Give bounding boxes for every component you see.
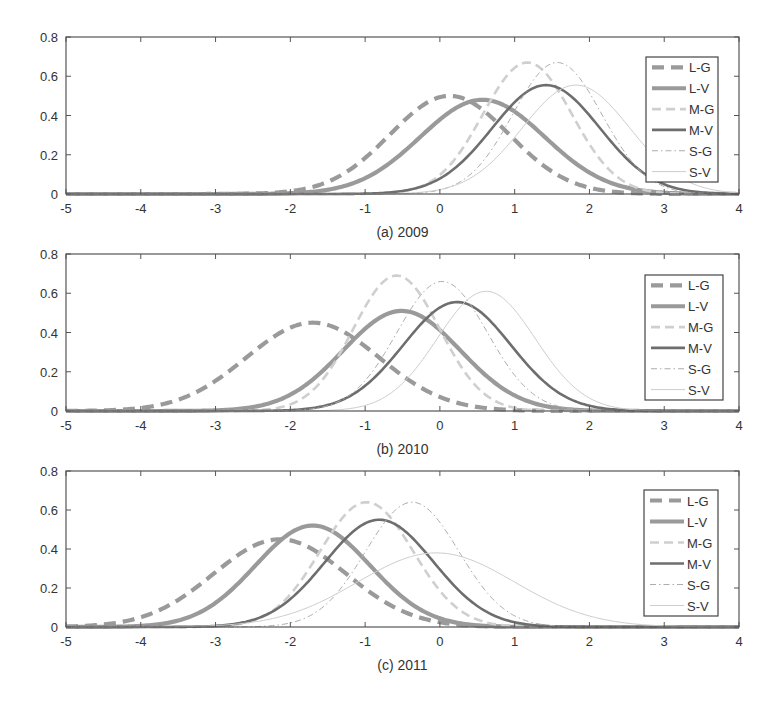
y-tick-label: 0.4 xyxy=(40,326,58,341)
x-tick-label: -4 xyxy=(135,418,147,433)
legend-label-l-v: L-V xyxy=(687,515,708,530)
y-tick-label: 0 xyxy=(51,620,58,635)
x-tick-label: 0 xyxy=(436,201,443,216)
y-tick-label: 0.8 xyxy=(40,30,58,45)
y-tick-label: 0 xyxy=(51,404,58,419)
x-tick-label: 2 xyxy=(586,201,593,216)
curve-m-v xyxy=(66,85,739,194)
x-tick-label: -1 xyxy=(359,634,371,649)
x-tick-label: -3 xyxy=(210,418,222,433)
panel-caption: (b) 2010 xyxy=(376,441,428,457)
axes-box xyxy=(66,471,739,627)
panel-caption: (a) 2009 xyxy=(376,224,428,240)
x-tick-label: 4 xyxy=(735,201,742,216)
legend-label-l-g: L-G xyxy=(687,494,709,509)
panel-caption: (c) 2011 xyxy=(377,657,428,673)
y-tick-label: 0.4 xyxy=(40,109,58,124)
y-tick-label: 0.4 xyxy=(40,542,58,557)
legend-label-m-g: M-G xyxy=(687,536,712,551)
x-tick-label: -2 xyxy=(285,634,297,649)
curve-m-v xyxy=(66,302,739,411)
curve-l-v xyxy=(66,311,739,411)
legend-label-l-g: L-G xyxy=(688,278,710,293)
x-tick-label: 1 xyxy=(511,418,518,433)
x-tick-label: -4 xyxy=(135,201,147,216)
panel-2011: -5-4-3-2-10123400.20.40.60.8(c) 2011L-GL… xyxy=(40,464,743,673)
legend: L-GL-VM-GM-VS-GS-V xyxy=(646,57,718,182)
x-tick-label: 0 xyxy=(436,634,443,649)
curve-l-g xyxy=(66,323,739,411)
y-tick-label: 0.2 xyxy=(40,365,58,380)
panel-2009: -5-4-3-2-10123400.20.40.60.8(a) 2009L-GL… xyxy=(40,30,743,240)
x-tick-label: 3 xyxy=(661,634,668,649)
curve-l-v xyxy=(66,100,739,194)
x-tick-label: 2 xyxy=(586,634,593,649)
curves xyxy=(66,502,739,627)
legend: L-GL-VM-GM-VS-GS-V xyxy=(644,490,718,616)
x-tick-label: 3 xyxy=(661,418,668,433)
curves xyxy=(66,276,739,411)
y-tick-label: 0.6 xyxy=(40,286,58,301)
x-tick-label: -1 xyxy=(359,201,371,216)
y-tick-label: 0.8 xyxy=(40,247,58,262)
legend-label-m-g: M-G xyxy=(688,320,713,335)
legend-label-s-g: S-G xyxy=(688,362,711,377)
x-tick-label: 3 xyxy=(661,201,668,216)
legend-label-m-v: M-V xyxy=(689,123,713,138)
legend-label-l-v: L-V xyxy=(688,299,709,314)
y-tick-label: 0 xyxy=(51,187,58,202)
legend-label-m-v: M-V xyxy=(688,341,712,356)
curve-l-g xyxy=(66,539,739,627)
curve-s-v xyxy=(66,85,739,194)
x-tick-label: -3 xyxy=(210,634,222,649)
panel-2010: -5-4-3-2-10123400.20.40.60.8(b) 2010L-GL… xyxy=(40,247,743,457)
curve-l-g xyxy=(66,96,739,194)
y-tick-label: 0.8 xyxy=(40,464,58,479)
x-tick-label: -2 xyxy=(285,418,297,433)
x-tick-label: 4 xyxy=(735,418,742,433)
legend-label-s-v: S-V xyxy=(689,165,711,180)
x-tick-label: -5 xyxy=(60,201,72,216)
x-tick-label: -3 xyxy=(210,201,222,216)
y-tick-label: 0.2 xyxy=(40,581,58,596)
x-tick-label: -1 xyxy=(359,418,371,433)
curve-m-g xyxy=(66,276,739,411)
curve-m-g xyxy=(66,63,739,194)
legend: L-GL-VM-GM-VS-GS-V xyxy=(645,275,723,400)
x-tick-label: 1 xyxy=(511,634,518,649)
legend-label-s-g: S-G xyxy=(689,144,712,159)
legend-label-m-v: M-V xyxy=(687,557,711,572)
y-tick-label: 0.2 xyxy=(40,148,58,163)
x-tick-label: 4 xyxy=(735,634,742,649)
legend-label-m-g: M-G xyxy=(689,102,714,117)
figure: -5-4-3-2-10123400.20.40.60.8(a) 2009L-GL… xyxy=(0,0,777,709)
x-tick-label: 1 xyxy=(511,201,518,216)
legend-label-s-v: S-V xyxy=(688,383,710,398)
legend-label-s-v: S-V xyxy=(687,599,709,614)
x-tick-label: -2 xyxy=(285,201,297,216)
legend-label-l-g: L-G xyxy=(689,60,711,75)
y-tick-label: 0.6 xyxy=(40,503,58,518)
x-tick-label: -4 xyxy=(135,634,147,649)
y-tick-label: 0.6 xyxy=(40,69,58,84)
x-tick-label: 2 xyxy=(586,418,593,433)
x-tick-label: -5 xyxy=(60,634,72,649)
x-tick-label: 0 xyxy=(436,418,443,433)
x-tick-label: -5 xyxy=(60,418,72,433)
curve-s-v xyxy=(66,553,739,627)
axes-box xyxy=(66,254,739,411)
legend-label-l-v: L-V xyxy=(689,81,710,96)
curves xyxy=(66,63,739,194)
legend-label-s-g: S-G xyxy=(687,578,710,593)
curve-s-g xyxy=(66,63,739,194)
